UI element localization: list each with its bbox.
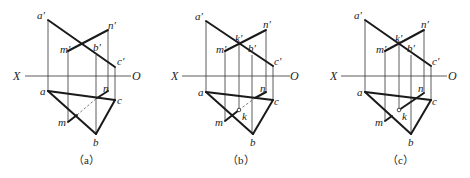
line-mn-hidden (77, 98, 97, 115)
label-n-prime: n′ (421, 18, 430, 30)
label-a-prime: a′ (354, 9, 363, 21)
caption-a: （a） (73, 154, 100, 166)
label-n: n (418, 82, 424, 94)
label-b: b (93, 136, 99, 148)
axis-label-o: O (448, 69, 457, 83)
line-bc (411, 100, 431, 134)
line-kn-hidden (239, 98, 255, 110)
label-n: n (260, 82, 266, 94)
label-m: m (58, 116, 66, 128)
label-n-prime: n′ (263, 18, 272, 30)
label-c-prime: c′ (117, 55, 125, 67)
point-k (237, 108, 241, 112)
label-b-prime: b′ (407, 42, 416, 54)
label-k-prime: k′ (235, 32, 243, 44)
label-c: c (117, 94, 122, 106)
label-b: b (408, 136, 414, 148)
label-m-prime: m′ (60, 43, 71, 55)
label-a: a (198, 86, 204, 98)
label-c-prime: c′ (274, 55, 282, 67)
label-a-prime: a′ (37, 9, 46, 21)
line-mn-visible-lower (68, 115, 77, 122)
label-n: n (103, 82, 109, 94)
label-b: b (250, 136, 256, 148)
label-m: m (215, 116, 223, 128)
label-k: k (402, 110, 408, 122)
label-c: c (274, 95, 279, 107)
label-m-prime: m′ (376, 43, 387, 55)
axis-label-o: O (132, 69, 141, 83)
projection-diagram: X O a′ n′ m′ b′ c′ a n c m b （a） X (0, 0, 470, 178)
label-b-prime: b′ (93, 41, 102, 53)
line-mk (385, 116, 392, 121)
label-b-prime: b′ (248, 42, 257, 54)
label-m: m (375, 116, 383, 128)
label-k: k (242, 110, 248, 122)
panel-c: X O a′ n′ k′ m′ b′ c′ a n c k m b （c） (329, 9, 457, 166)
label-c: c (432, 95, 437, 107)
panel-a: X O a′ n′ m′ b′ c′ a n c m b （a） (12, 9, 141, 166)
line-bc (96, 100, 115, 134)
label-n-prime: n′ (108, 19, 117, 31)
axis-label-x: X (170, 69, 179, 83)
line-kn (399, 93, 424, 110)
label-c-prime: c′ (432, 55, 440, 67)
axis-label-o: O (290, 69, 299, 83)
panel-b: X O a′ n′ k′ m′ b′ c′ a n c k m b （b） (170, 10, 299, 166)
caption-c: （c） (387, 154, 414, 166)
label-a-prime: a′ (195, 10, 204, 22)
label-m-prime: m′ (216, 43, 227, 55)
axis-label-x: X (329, 69, 338, 83)
caption-b: （b） (227, 154, 255, 166)
label-a: a (40, 85, 46, 97)
axis-label-x: X (12, 69, 21, 83)
label-a: a (357, 86, 363, 98)
point-k (397, 108, 401, 112)
label-k-prime: k′ (395, 32, 403, 44)
line-bc (253, 100, 273, 134)
